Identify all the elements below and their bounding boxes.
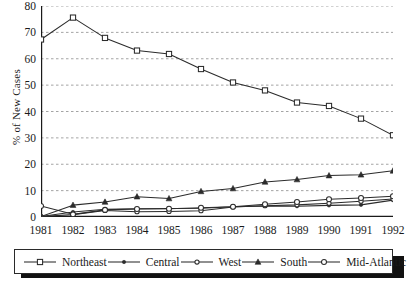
data-point xyxy=(198,66,203,71)
data-point xyxy=(166,51,171,56)
data-point xyxy=(103,207,108,212)
chart-legend: NortheastCentralWestSouthMid-Atlantic xyxy=(14,249,393,274)
data-point xyxy=(41,37,44,42)
data-point xyxy=(390,133,393,138)
y-axis-tick-labels: 01020304050607080 xyxy=(8,0,36,223)
legend-item-mid-atlantic[interactable]: Mid-Atlantic xyxy=(307,256,406,268)
y-tick-label: 50 xyxy=(12,80,36,90)
legend-marker xyxy=(37,259,42,264)
plot-area xyxy=(41,6,393,217)
series-south xyxy=(41,168,393,217)
legend-item-south[interactable]: South xyxy=(241,256,307,268)
data-point xyxy=(167,206,172,211)
data-point xyxy=(391,194,394,199)
data-point xyxy=(230,80,235,85)
legend-marker xyxy=(322,259,327,264)
data-point xyxy=(262,88,267,93)
series-line xyxy=(41,18,393,136)
filled-dot-icon xyxy=(107,256,141,268)
series-line xyxy=(41,171,393,217)
legend-item-west[interactable]: West xyxy=(180,256,242,268)
legend-label: South xyxy=(278,256,307,268)
data-point xyxy=(71,212,76,217)
x-tick-label: 1992 xyxy=(373,224,407,236)
data-point xyxy=(231,204,236,209)
legend-label: Mid-Atlantic xyxy=(344,256,406,268)
y-tick-label: 30 xyxy=(12,133,36,143)
data-point xyxy=(70,15,75,20)
data-point xyxy=(199,205,204,210)
open-square-icon xyxy=(23,256,57,268)
data-point xyxy=(295,199,300,204)
open-circle-small-icon xyxy=(180,256,214,268)
open-circle-icon xyxy=(307,256,341,268)
legend-marker xyxy=(122,260,125,263)
data-point xyxy=(327,197,332,202)
legend-label: Central xyxy=(144,256,180,268)
y-tick-label: 60 xyxy=(12,54,36,64)
data-point xyxy=(359,196,364,201)
data-point xyxy=(134,48,139,53)
plot-svg xyxy=(41,6,393,217)
y-tick-label: 10 xyxy=(12,186,36,196)
data-point xyxy=(390,168,393,173)
data-point xyxy=(294,100,299,105)
line-chart: % of New Cases 01020304050607080 1981198… xyxy=(0,0,407,283)
y-tick-label: 0 xyxy=(12,212,36,222)
y-tick-label: 40 xyxy=(12,107,36,117)
y-tick-label: 80 xyxy=(12,1,36,11)
legend-item-central[interactable]: Central xyxy=(107,256,180,268)
x-axis-tick-labels: 1981198219831984198519861987198819891990… xyxy=(41,224,393,242)
legend-item-northeast[interactable]: Northeast xyxy=(23,256,107,268)
data-point xyxy=(358,116,363,121)
legend-label: Northeast xyxy=(60,256,107,268)
data-point xyxy=(135,207,140,212)
series-northeast xyxy=(41,15,393,138)
y-tick-label: 20 xyxy=(12,159,36,169)
filled-triangle-icon xyxy=(241,256,275,268)
data-point xyxy=(326,103,331,108)
data-point xyxy=(41,203,44,208)
data-point xyxy=(263,202,268,207)
legend-label: West xyxy=(217,256,242,268)
legend-marker xyxy=(194,259,198,263)
data-point xyxy=(102,35,107,40)
y-tick-label: 70 xyxy=(12,27,36,37)
